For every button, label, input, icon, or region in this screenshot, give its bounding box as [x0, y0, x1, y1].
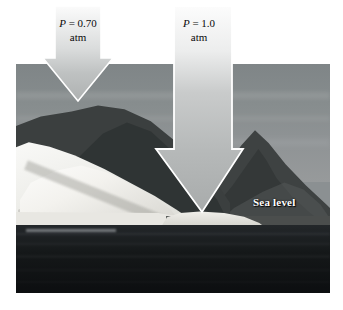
wave-line: [16, 233, 330, 235]
sea-level-label: Sea level: [253, 196, 295, 208]
arrow-right-value: = 1.0: [190, 17, 215, 29]
arrow-right-label: P = 1.0 atm: [155, 17, 243, 45]
arrow-left-label: P = 0.70 atm: [44, 17, 112, 45]
wave-line: [16, 269, 330, 271]
arrow-right-label-line1: P = 1.0: [155, 17, 243, 31]
cloud-band: [16, 92, 330, 99]
landscape-photo: [16, 64, 330, 293]
arrow-left-value: = 0.70: [66, 17, 97, 29]
pressure-altitude-figure: Sea level P = 0.70 atm: [0, 0, 343, 310]
pressure-symbol: P: [183, 17, 190, 29]
wave-line: [16, 255, 330, 258]
pressure-symbol: P: [59, 17, 66, 29]
arrow-right-label-line2: atm: [155, 31, 243, 45]
arrow-left-label-line1: P = 0.70: [44, 17, 112, 31]
wave-glint: [26, 229, 116, 232]
sea-region: [16, 225, 330, 293]
wave-line: [16, 281, 330, 283]
arrow-left-label-line2: atm: [44, 31, 112, 45]
wave-line: [16, 243, 330, 245]
